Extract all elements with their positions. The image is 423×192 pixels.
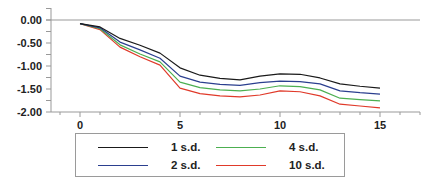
- legend-label-4sd: 4 s.d.: [289, 141, 318, 153]
- chart-legend: 1 s.d. 2 s.d. 4 s.d. 10 s.d.: [75, 133, 345, 177]
- y-tick-label: -2.00: [17, 106, 42, 118]
- line-chart: 0.00-0.50-1.00-1.50-2.00051015: [0, 0, 423, 132]
- legend-item-4sd: 4 s.d.: [216, 139, 318, 155]
- chart-series: [80, 24, 380, 108]
- x-tick-label: 5: [177, 119, 183, 131]
- legend-label-10sd: 10 s.d.: [289, 159, 325, 171]
- legend-swatch-2sd: [98, 165, 148, 166]
- x-tick-label: 15: [374, 119, 386, 131]
- y-tick-label: 0.00: [21, 14, 42, 26]
- legend-item-10sd: 10 s.d.: [216, 157, 325, 173]
- chart-axes: 0.00-0.50-1.00-1.50-2.00051015: [17, 8, 420, 131]
- y-tick-label: -0.50: [17, 37, 42, 49]
- legend-item-2sd: 2 s.d.: [98, 157, 200, 173]
- x-tick-label: 10: [274, 119, 286, 131]
- legend-swatch-1sd: [98, 147, 148, 148]
- legend-swatch-10sd: [216, 165, 266, 166]
- legend-label-2sd: 2 s.d.: [171, 159, 200, 171]
- y-tick-label: -1.00: [17, 60, 42, 72]
- y-tick-label: -1.50: [17, 83, 42, 95]
- x-tick-label: 0: [77, 119, 83, 131]
- series-line-10-s-d: [80, 24, 380, 108]
- series-line-1-s-d: [80, 24, 380, 88]
- legend-label-1sd: 1 s.d.: [171, 141, 200, 153]
- legend-swatch-4sd: [216, 147, 266, 148]
- legend-item-1sd: 1 s.d.: [98, 139, 200, 155]
- series-line-2-s-d: [80, 24, 380, 94]
